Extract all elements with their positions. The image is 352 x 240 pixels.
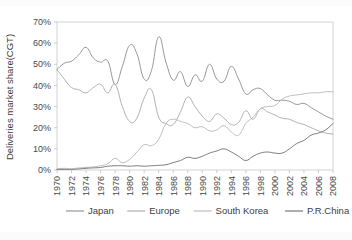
y-axis-label: Deliveries market share(CGT) (4, 34, 15, 160)
x-tick-label: 1978 (111, 176, 121, 196)
x-tick-label: 2002 (285, 176, 295, 196)
legend-label-europe[interactable]: Europe (149, 205, 180, 216)
y-tick-label: 50% (33, 59, 51, 69)
y-tick-label: 30% (33, 102, 51, 112)
x-tick-label: 1974 (81, 176, 91, 196)
x-tick-label: 1996 (241, 176, 251, 196)
y-tick-label: 60% (33, 38, 51, 48)
x-tick-label: 1970 (52, 176, 62, 196)
legend-label-south-korea[interactable]: South Korea (216, 205, 270, 216)
x-tick-label: 1992 (212, 176, 222, 196)
legend-label-japan[interactable]: Japan (88, 205, 114, 216)
x-tick-label: 1994 (227, 176, 237, 196)
chart-figure: 0%10%20%30%40%50%60%70% 1970197219741976… (0, 0, 352, 240)
x-tick-label: 1986 (169, 176, 179, 196)
x-tick-label: 1982 (140, 176, 150, 196)
y-tick-label: 40% (33, 81, 51, 91)
legend-label-p-r-china[interactable]: P.R.China (307, 205, 350, 216)
y-tick-label: 70% (33, 17, 51, 27)
x-tick-label: 1976 (96, 176, 106, 196)
top-edge-band (0, 0, 352, 6)
x-tick-label: 1980 (125, 176, 135, 196)
x-tick-label: 1972 (67, 176, 77, 196)
x-tick-label: 2006 (314, 176, 324, 196)
bottom-edge-band (0, 232, 352, 240)
y-tick-label: 0% (38, 165, 51, 175)
x-tick-label: 1990 (198, 176, 208, 196)
y-tick-label: 20% (33, 123, 51, 133)
x-tick-label: 2008 (328, 176, 338, 196)
x-tick-label: 1998 (256, 176, 266, 196)
x-tick-label: 2000 (270, 176, 280, 196)
x-tick-label: 1988 (183, 176, 193, 196)
x-tick-label: 1984 (154, 176, 164, 196)
x-tick-label: 2004 (299, 176, 309, 196)
line-chart: 0%10%20%30%40%50%60%70% 1970197219741976… (0, 0, 352, 240)
y-tick-label: 10% (33, 144, 51, 154)
